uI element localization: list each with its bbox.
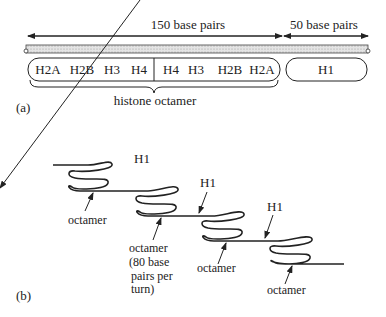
nucleosome-coil-3 bbox=[202, 212, 278, 241]
octamer-label-2: octamer bbox=[129, 241, 168, 255]
h1-label-1: H1 bbox=[134, 151, 150, 166]
histone-label: H2B bbox=[218, 62, 243, 77]
h1-arrow-2 bbox=[199, 192, 207, 213]
histone-label: H3 bbox=[104, 62, 120, 77]
octamer-arrow-4 bbox=[285, 266, 292, 284]
panel-a-label: (a) bbox=[16, 100, 30, 115]
dna-strand-bar bbox=[26, 45, 368, 53]
panel-a: 150 base pairs 50 base pairs H2A H2B H3 … bbox=[16, 17, 370, 115]
h1-label-3: H1 bbox=[267, 199, 283, 214]
h1-label-2: H1 bbox=[200, 175, 216, 190]
histone-label: H2A bbox=[249, 62, 275, 77]
nucleosome-diagram: 150 base pairs 50 base pairs H2A H2B H3 … bbox=[0, 0, 386, 317]
octamer-note-line-3: turn) bbox=[131, 282, 154, 296]
octamer-label-4: octamer bbox=[267, 283, 306, 297]
histone-label: H2A bbox=[35, 62, 61, 77]
histone-label: H4 bbox=[163, 62, 179, 77]
histone-label: H4 bbox=[131, 62, 147, 77]
span-150-label: 150 base pairs bbox=[151, 17, 225, 32]
histone-label: H2B bbox=[70, 62, 95, 77]
octamer-arrow-1 bbox=[85, 193, 93, 211]
panel-b-label: (b) bbox=[16, 288, 31, 303]
octamer-brace bbox=[30, 80, 278, 93]
span-50-label: 50 base pairs bbox=[290, 17, 358, 32]
octamer-label-1: octamer bbox=[68, 213, 107, 227]
nucleosome-coil-4 bbox=[270, 237, 344, 264]
h1-arrow-3 bbox=[265, 215, 273, 238]
octamer-arrow-2 bbox=[153, 218, 161, 240]
nucleosome-coil-1 bbox=[53, 162, 148, 191]
h1-box-label: H1 bbox=[318, 62, 334, 77]
histone-label: H3 bbox=[188, 62, 204, 77]
brace-label: histone octamer bbox=[114, 93, 197, 108]
octamer-note-line-1: (80 base bbox=[129, 255, 169, 269]
octamer-note-line-2: pairs per bbox=[131, 269, 173, 283]
octamer-label-3: octamer bbox=[197, 261, 236, 275]
